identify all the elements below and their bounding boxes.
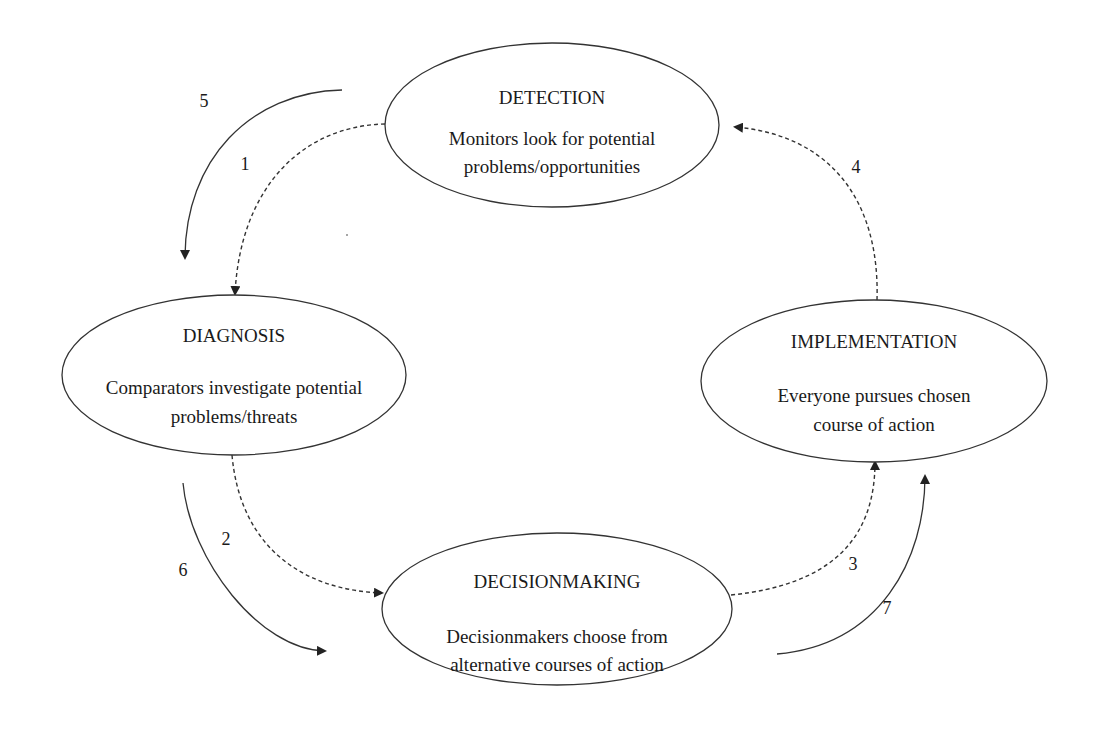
detection-desc-line2: problems/opportunities (464, 156, 640, 177)
node-detection: DETECTION Monitors look for potential pr… (385, 43, 719, 207)
decisionmaking-desc-line2: alternative courses of action (450, 654, 664, 675)
node-diagnosis: DIAGNOSIS Comparators investigate potent… (62, 295, 406, 455)
node-decisionmaking: DECISIONMAKING Decisionmakers choose fro… (382, 533, 732, 685)
detection-desc-line1: Monitors look for potential (449, 128, 655, 149)
decisionmaking-desc-line1: Decisionmakers choose from (446, 626, 668, 647)
diagnosis-desc-line2: problems/threats (171, 406, 298, 427)
detection-ellipse (385, 43, 719, 207)
implementation-ellipse (701, 300, 1047, 462)
edge-4-dashed-arrow (735, 127, 877, 300)
edge-label-5: 5 (200, 91, 209, 111)
diagnosis-ellipse (62, 295, 406, 455)
diagnosis-desc-line1: Comparators investigate potential (106, 377, 362, 398)
detection-title: DETECTION (499, 87, 606, 108)
diagnosis-title: DIAGNOSIS (183, 325, 285, 346)
edge-label-6: 6 (179, 560, 188, 580)
edge-label-2: 2 (222, 529, 231, 549)
implementation-desc-line2: course of action (813, 414, 935, 435)
edge-label-3: 3 (849, 554, 858, 574)
edge-1-dashed-arrow (235, 124, 385, 294)
edge-6-solid-arrow (183, 483, 325, 651)
edge-3-dashed-arrow (731, 462, 875, 595)
speck-dot (346, 234, 348, 236)
edge-label-4: 4 (852, 157, 861, 177)
edge-label-7: 7 (883, 598, 892, 618)
node-implementation: IMPLEMENTATION Everyone pursues chosen c… (701, 300, 1047, 462)
edge-2-dashed-arrow (232, 455, 382, 593)
decision-cycle-diagram: 5 1 4 2 6 3 7 DETECTION Monitors look fo… (0, 0, 1099, 734)
decisionmaking-title: DECISIONMAKING (474, 571, 641, 592)
edge-5-solid-arrow (185, 90, 342, 258)
edge-label-1: 1 (241, 154, 250, 174)
implementation-title: IMPLEMENTATION (791, 331, 958, 352)
implementation-desc-line1: Everyone pursues chosen (777, 385, 971, 406)
